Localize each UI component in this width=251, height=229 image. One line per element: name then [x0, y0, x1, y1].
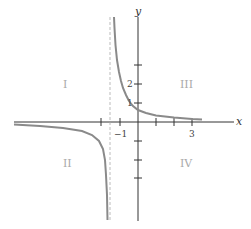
curve-left-branch [14, 125, 108, 221]
quadrant-label-1: I [63, 78, 67, 91]
quadrant-label-3: III [180, 78, 193, 91]
y-tick-label-2: 2 [127, 79, 133, 89]
quadrant-label-4: IV [180, 157, 193, 170]
y-axis-label: y [134, 5, 142, 18]
x-tick-label-neg1: −1 [114, 129, 127, 139]
quadrant-label-2: II [63, 157, 72, 170]
x-axis-label: x [236, 115, 243, 128]
y-tick-label-1: 1 [127, 98, 133, 108]
hyperbola-graph: y x −1 3 1 2 I II III IV [0, 0, 251, 229]
x-tick-label-3: 3 [189, 129, 195, 139]
